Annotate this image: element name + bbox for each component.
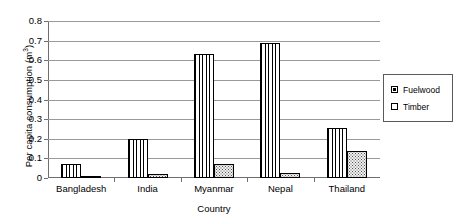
- x-axis-label-nepal: Nepal: [247, 183, 313, 194]
- bar-group: [247, 21, 313, 178]
- x-axis-title: Country: [48, 203, 380, 214]
- y-axis-tick-label: 0.2: [29, 134, 42, 144]
- y-axis-tick-label: 0.3: [29, 114, 42, 124]
- bar-myanmar-timber: [214, 164, 234, 178]
- bar-thailand-fuelwood: [327, 128, 347, 178]
- legend-label-timber: Timber: [403, 102, 429, 112]
- bar-india-timber: [148, 174, 168, 178]
- bar-group: [48, 21, 114, 178]
- y-axis-tick-label: 0.5: [29, 75, 42, 85]
- x-axis-tick: [114, 178, 115, 182]
- x-axis-label-india: India: [114, 183, 180, 194]
- x-axis-label-thailand: Thailand: [314, 183, 380, 194]
- x-axis-tick: [314, 178, 315, 182]
- y-axis-title-superscript: 3: [22, 48, 29, 52]
- bar-india-fuelwood: [128, 139, 148, 178]
- y-axis-title-text: Per capita consumption (m: [23, 52, 34, 168]
- legend: Fuelwood Timber: [383, 74, 453, 122]
- x-axis-tick: [181, 178, 182, 182]
- legend-swatch-timber-icon: [391, 103, 398, 110]
- y-axis-tick-label: 0.6: [29, 56, 42, 66]
- legend-item-timber: Timber: [391, 98, 452, 115]
- x-axis-label-myanmar: Myanmar: [181, 183, 247, 194]
- bar-myanmar-fuelwood: [194, 54, 214, 178]
- y-axis-tick-label: 0.7: [29, 36, 42, 46]
- bar-nepal-timber: [280, 173, 300, 178]
- y-axis-tick-label: 0: [37, 173, 42, 183]
- bar-thailand-timber: [347, 151, 367, 178]
- legend-item-fuelwood: Fuelwood: [391, 81, 452, 98]
- y-axis-tick-label: 0.4: [29, 95, 42, 105]
- bar-bangladesh-timber: [81, 176, 101, 178]
- bar-chart: Per capita consumption (m3) 00.10.20.30.…: [0, 0, 461, 224]
- x-axis-label-bangladesh: Bangladesh: [48, 183, 114, 194]
- legend-label-fuelwood: Fuelwood: [403, 85, 440, 95]
- bar-group: [314, 21, 380, 178]
- bar-group: [181, 21, 247, 178]
- plot-area: 00.10.20.30.40.50.60.70.8: [48, 21, 380, 178]
- bar-group: [114, 21, 180, 178]
- y-axis-tick-label: 0.1: [29, 154, 42, 164]
- y-axis-tick-label: 0.8: [29, 16, 42, 26]
- bar-bangladesh-fuelwood: [61, 164, 81, 178]
- legend-swatch-fuelwood-icon: [391, 86, 398, 93]
- bar-nepal-fuelwood: [260, 43, 280, 178]
- y-axis-title: Per capita consumption (m3): [22, 20, 34, 192]
- x-axis-tick: [247, 178, 248, 182]
- y-axis-tick: [44, 178, 48, 179]
